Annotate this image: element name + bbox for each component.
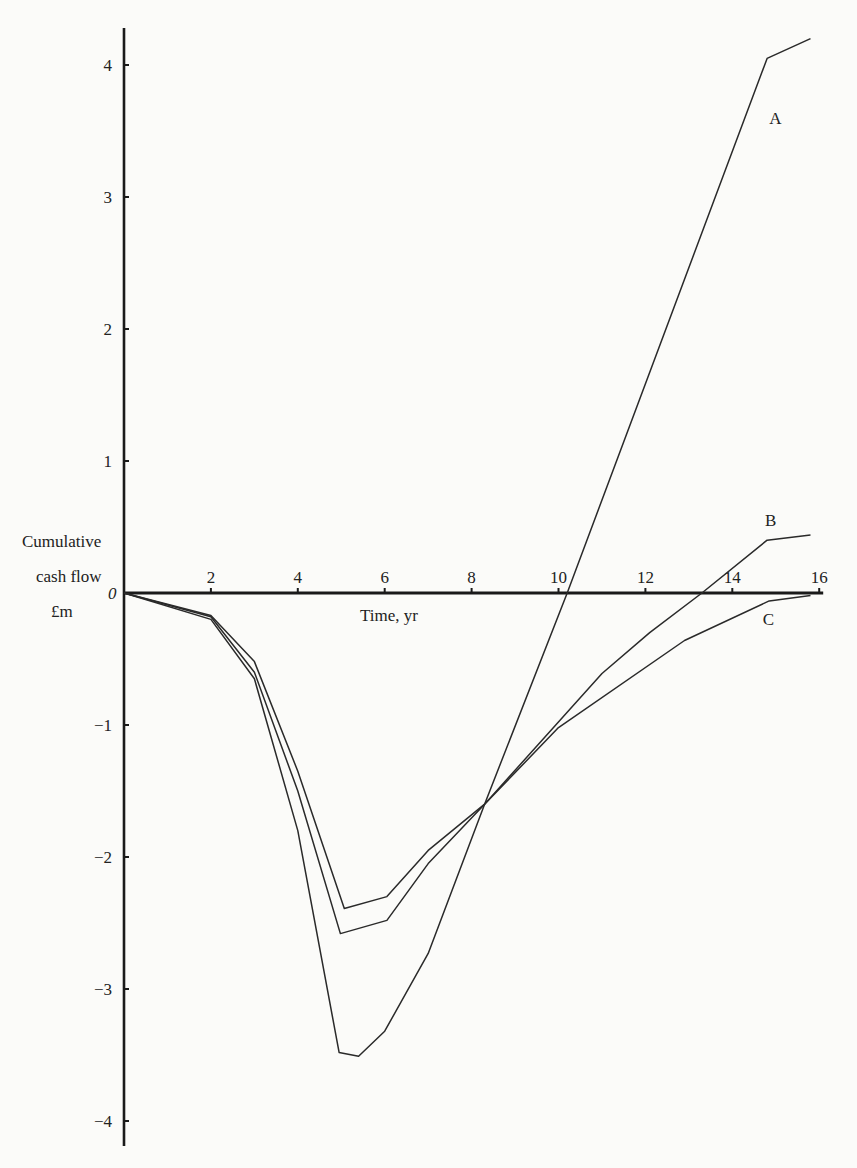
x-tick-label: 10: [550, 568, 567, 587]
y-axis-label-line2: cash flow: [36, 567, 102, 586]
y-tick-label: −2: [94, 848, 112, 867]
y-tick-label: −1: [94, 716, 112, 735]
series-label-a: A: [769, 109, 782, 128]
axes: [124, 28, 823, 1146]
series-line-b: [124, 535, 811, 934]
y-tick-label: 3: [104, 188, 113, 207]
x-tick-label: 16: [811, 568, 828, 587]
origin-label: 0: [108, 584, 117, 603]
y-tick-label: 4: [104, 56, 113, 75]
series-line-a: [124, 39, 811, 1057]
x-tick-label: 8: [467, 568, 476, 587]
x-tick-label: 12: [637, 568, 654, 587]
cumulative-cash-flow-chart: 2468101214164321−1−2−3−4 ABC Cumulative …: [0, 0, 857, 1168]
series-lines: [124, 39, 811, 1057]
y-tick-label: −3: [94, 980, 112, 999]
series-label-b: B: [765, 511, 776, 530]
series-label-c: C: [763, 610, 774, 629]
series-labels: ABC: [763, 109, 783, 630]
x-tick-label: 4: [294, 568, 303, 587]
y-axis-label-line3: £m: [51, 602, 73, 621]
x-tick-label: 2: [207, 568, 216, 587]
y-axis-label-line1: Cumulative: [22, 532, 101, 551]
y-tick-label: 2: [104, 320, 113, 339]
x-tick-label: 6: [380, 568, 389, 587]
y-tick-label: 1: [104, 452, 113, 471]
x-tick-label: 14: [724, 568, 742, 587]
x-axis-label: Time, yr: [360, 606, 418, 625]
y-tick-label: −4: [94, 1112, 113, 1131]
